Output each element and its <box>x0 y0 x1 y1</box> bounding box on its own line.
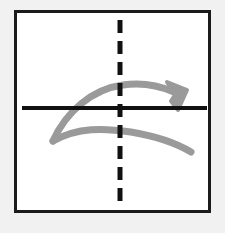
figure-root <box>0 0 225 233</box>
upper-curved-arrowhead <box>167 82 187 110</box>
figure-canvas <box>0 0 225 233</box>
